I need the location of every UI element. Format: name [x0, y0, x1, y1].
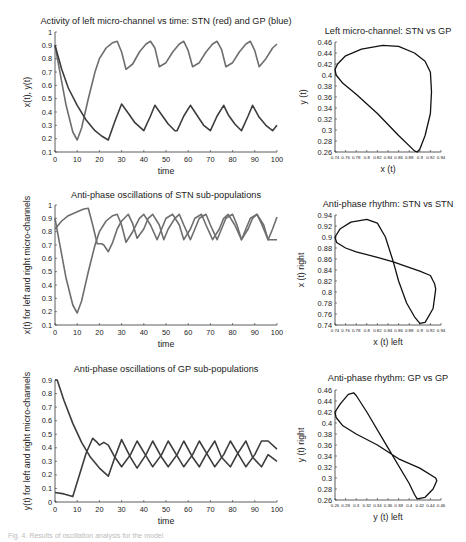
y-tick-label: 0.38 — [318, 82, 332, 91]
x-tick-label: 0.3 — [353, 503, 360, 508]
y-tick-label: 0.38 — [318, 430, 332, 439]
y-tick-label: 0.3 — [322, 126, 332, 135]
x-tick-label: 0.74 — [331, 328, 340, 333]
y-tick-label: 0.2 — [42, 134, 52, 143]
y-tick-label: 0.9 — [322, 233, 332, 242]
x-tick-label: 30 — [117, 505, 125, 514]
x-tick-label: 0 — [53, 328, 57, 337]
x-axis-label: time — [158, 339, 175, 349]
series-line — [335, 219, 436, 323]
x-tick-label: 0.28 — [341, 503, 350, 508]
x-tick-label: 70 — [206, 155, 214, 164]
x-tick-label: 20 — [95, 155, 103, 164]
y-tick-label: 0.42 — [318, 60, 332, 69]
y-axis-label: y(t) for left and right micro-channels — [22, 371, 32, 510]
x-tick-label: 0.36 — [384, 503, 393, 508]
x-tick-label: 20 — [95, 505, 103, 514]
y-tick-label: 0.6 — [42, 254, 52, 263]
y-axis-label: x(t), y(t) — [22, 77, 32, 107]
x-tick-label: 50 — [162, 155, 170, 164]
x-tick-label: 0.8 — [364, 328, 371, 333]
chart-title: Anti-phase rhythm: STN vs STN — [323, 199, 454, 209]
x-tick-label: 0.76 — [341, 328, 350, 333]
figure-caption: Fig. 4. Results of oscillation analysis … — [8, 532, 164, 540]
x-tick-label: 0.8 — [364, 155, 371, 160]
x-axis-label: time — [158, 166, 175, 176]
x-tick-label: 70 — [206, 328, 214, 337]
series-line — [55, 438, 277, 496]
x-tick-label: 100 — [271, 155, 283, 164]
series-line — [55, 214, 277, 313]
y-tick-label: 0.8 — [42, 227, 52, 236]
y-tick-label: 0 — [48, 498, 52, 507]
x-tick-label: 100 — [271, 505, 283, 514]
x-tick-label: 0.46 — [437, 503, 446, 508]
x-tick-label: 80 — [228, 155, 236, 164]
figure-canvas: Activity of left micro-channel vs time: … — [0, 0, 466, 542]
y-tick-label: 0.76 — [318, 310, 332, 319]
x-tick-label: 50 — [162, 328, 170, 337]
y-tick-label: 0.42 — [318, 408, 332, 417]
chart-title: Anti-phase oscillations of GP sub-popula… — [74, 364, 259, 374]
chart-p4: Anti-phase rhythm: STN vs STN0.740.760.7… — [296, 199, 453, 347]
series-line — [335, 45, 432, 152]
chart-p6: Anti-phase rhythm: GP vs GP0.260.280.30.… — [296, 373, 448, 522]
y-tick-label: 0.1 — [42, 484, 52, 493]
x-tick-label: 0.86 — [394, 328, 403, 333]
y-tick-label: 0.4 — [322, 71, 332, 80]
y-axis-label: x (t) right — [296, 252, 306, 287]
y-tick-label: 0.1 — [42, 321, 52, 330]
chart-title: Activity of left micro-channel vs time: … — [40, 16, 291, 26]
y-tick-label: 0.86 — [318, 255, 332, 264]
y-tick-label: 0.44 — [318, 397, 332, 406]
x-tick-label: 0.78 — [352, 328, 361, 333]
x-tick-label: 0.94 — [437, 328, 446, 333]
y-tick-label: 0.5 — [42, 430, 52, 439]
y-axis-label: x(t) for left and right micro-channels — [22, 195, 32, 334]
x-axis-label: time — [158, 516, 175, 526]
x-tick-label: 0.26 — [331, 503, 340, 508]
y-tick-label: 0.3 — [42, 294, 52, 303]
chart-title: Left micro-channel: STN vs GP — [325, 26, 452, 36]
chart-p5: Anti-phase oscillations of GP sub-popula… — [22, 364, 283, 526]
x-tick-label: 0.84 — [384, 328, 393, 333]
x-tick-label: 60 — [184, 328, 192, 337]
y-tick-label: 0.8 — [42, 54, 52, 63]
y-tick-label: 0.3 — [322, 474, 332, 483]
x-tick-label: 90 — [251, 155, 259, 164]
y-tick-label: 0.9 — [42, 376, 52, 385]
y-tick-label: 0.32 — [318, 463, 332, 472]
x-tick-label: 40 — [140, 155, 148, 164]
y-tick-label: 0.32 — [318, 115, 332, 124]
y-tick-label: 0.4 — [42, 108, 52, 117]
y-tick-label: 0.82 — [318, 277, 332, 286]
x-tick-label: 10 — [73, 505, 81, 514]
y-tick-label: 0.4 — [42, 443, 52, 452]
x-tick-label: 80 — [228, 328, 236, 337]
x-tick-label: 0.42 — [416, 503, 425, 508]
x-tick-label: 0.76 — [341, 155, 350, 160]
x-tick-label: 50 — [162, 505, 170, 514]
y-tick-label: 0.28 — [318, 137, 332, 146]
y-tick-label: 0.36 — [318, 93, 332, 102]
y-tick-label: 0.26 — [318, 148, 332, 157]
y-tick-label: 0.4 — [42, 281, 52, 290]
y-axis-label: y (t) — [298, 89, 308, 104]
x-tick-label: 80 — [228, 505, 236, 514]
y-tick-label: 0.7 — [42, 403, 52, 412]
y-tick-label: 0.94 — [318, 211, 332, 220]
x-tick-label: 0.84 — [384, 155, 393, 160]
y-tick-label: 0.78 — [318, 299, 332, 308]
chart-title: Anti-phase rhythm: GP vs GP — [328, 373, 448, 383]
y-tick-label: 0.6 — [42, 81, 52, 90]
x-tick-label: 60 — [184, 505, 192, 514]
y-tick-label: 0.2 — [42, 307, 52, 316]
x-tick-label: 0.32 — [363, 503, 372, 508]
y-tick-label: 0.8 — [322, 288, 332, 297]
y-tick-label: 0.9 — [42, 41, 52, 50]
x-tick-label: 0.86 — [394, 155, 403, 160]
y-tick-label: 0.34 — [318, 104, 332, 113]
y-tick-label: 1 — [48, 201, 52, 210]
y-tick-label: 0.7 — [42, 241, 52, 250]
x-tick-label: 30 — [117, 155, 125, 164]
